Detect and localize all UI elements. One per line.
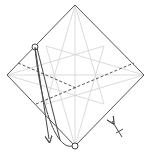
crease-lines (7, 5, 144, 146)
paper-outline (7, 5, 144, 146)
origami-diagram (0, 0, 146, 158)
fold-arrow (35, 47, 72, 146)
push-flip-arrow (112, 121, 123, 137)
target-point-circle (72, 143, 78, 149)
